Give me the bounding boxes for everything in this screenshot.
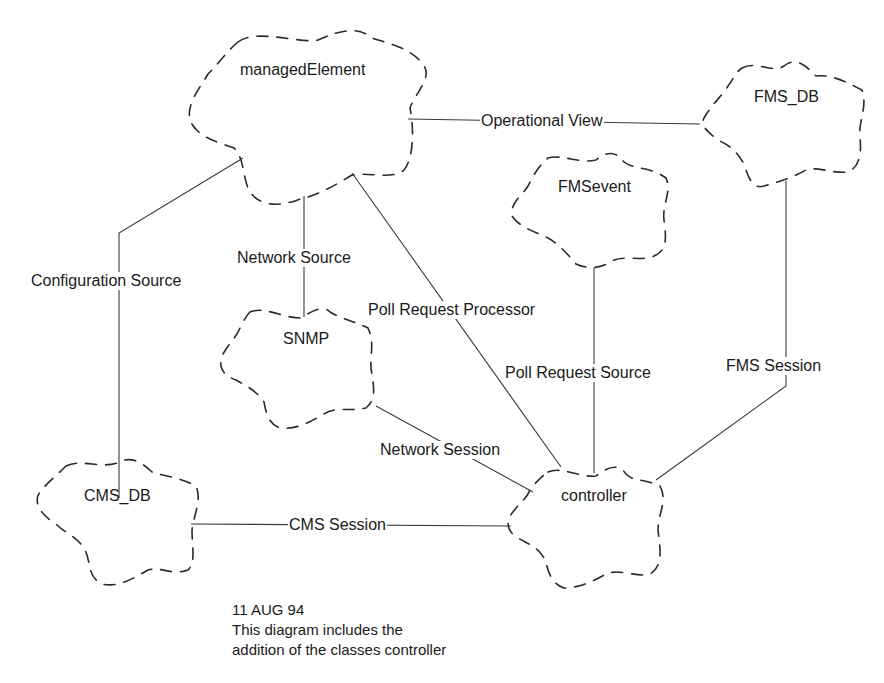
class-cloud-managedElement[interactable] [189,31,426,205]
class-cloud-SNMP[interactable] [221,309,374,429]
relation-label-cms-session: CMS Session [288,516,387,534]
note-date: 11 AUG 94 [232,600,446,620]
class-cloud-FMSevent[interactable] [512,154,668,268]
class-label-managedElement: managedElement [240,61,365,79]
relation-label-poll-request-processor: Poll Request Processor [367,301,536,319]
connector-fms-session [656,181,786,480]
relation-label-fms-session: FMS Session [725,357,822,375]
class-diagram: managedElement FMS_DB FMSevent SNMP CMS_… [0,0,884,683]
relation-label-poll-request-source: Poll Request Source [504,364,652,382]
class-label-FMS_DB: FMS_DB [754,88,819,106]
relation-label-network-source: Network Source [236,249,352,267]
class-cloud-controller[interactable] [508,467,663,588]
connectors [119,119,786,526]
class-cloud-FMS_DB[interactable] [703,62,864,187]
diagram-note: 11 AUG 94 This diagram includes the addi… [232,600,446,660]
connector-poll-request-processor [352,173,561,467]
connector-configuration-source [119,158,243,498]
class-label-SNMP: SNMP [283,330,329,348]
note-line-1: This diagram includes the [232,620,446,640]
class-label-CMS_DB: CMS_DB [84,487,151,505]
relation-label-operational-view: Operational View [480,112,604,130]
class-cloud-CMS_DB[interactable] [37,460,198,585]
note-line-2: addition of the classes controller [232,640,446,660]
class-label-controller: controller [561,487,627,505]
relation-label-network-session: Network Session [379,441,501,459]
relation-label-configuration-source: Configuration Source [30,272,182,290]
class-label-FMSevent: FMSevent [558,178,631,196]
